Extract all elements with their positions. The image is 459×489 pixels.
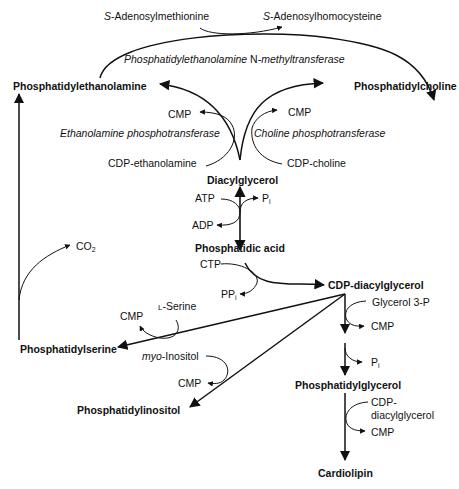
arrow-dag-to-pc bbox=[240, 83, 323, 160]
cdp-choline-label: CDP-choline bbox=[287, 157, 346, 169]
myo-inositol-label: myo-Inositol bbox=[142, 350, 199, 362]
arrow-cdpe-to-cmp bbox=[200, 112, 234, 166]
pi-pg-base: P bbox=[371, 356, 378, 368]
co2-label: CO2 bbox=[76, 240, 96, 256]
pi-top-sub: i bbox=[269, 198, 271, 205]
ept-enzyme-label: Ethanolamine phosphotransferase bbox=[60, 127, 220, 139]
co2-sub: 2 bbox=[92, 246, 96, 253]
arrow-dag-to-pe bbox=[160, 84, 240, 160]
cardiolipin-label: Cardiolipin bbox=[318, 467, 373, 479]
dag-label: Diacylglycerol bbox=[207, 174, 278, 186]
ps-label: Phosphatidylserine bbox=[20, 343, 117, 355]
sah-label: S-Adenosylhomocysteine bbox=[263, 10, 382, 22]
sam-prefix: S bbox=[104, 10, 111, 22]
pe-label: Phosphatidylethanolamine bbox=[13, 80, 147, 92]
arrow-to-adp bbox=[217, 212, 240, 225]
pemt-part2: N bbox=[250, 53, 258, 65]
sam-label: S-Adenosylmethionine bbox=[104, 10, 209, 22]
co2-base: CO bbox=[76, 240, 92, 252]
phospholipid-biosynthesis-diagram: S-Adenosylmethionine S-Adenosylhomocyste… bbox=[0, 0, 459, 489]
pa-label: Phosphatidic acid bbox=[195, 242, 285, 254]
cdp-ethanolamine-label: CDP-ethanolamine bbox=[108, 157, 197, 169]
atp-label: ATP bbox=[195, 192, 215, 204]
l-serine-text: -Serine bbox=[162, 300, 196, 312]
pc-label: Phosphatidylcholine bbox=[354, 80, 457, 92]
pg-label: Phosphatidylglycerol bbox=[295, 379, 401, 391]
pemt-part1: Phosphatidylethanolamine bbox=[124, 53, 250, 65]
cdp-dag-label: CDP-diacylglycerol bbox=[328, 279, 424, 291]
cmp-glycerol-label: CMP bbox=[371, 320, 394, 332]
cdp-dag2-line1: CDP- bbox=[371, 396, 397, 408]
pi-pg-label: Pi bbox=[371, 356, 380, 372]
arrow-g3p-cmp bbox=[346, 301, 366, 326]
arrow-to-pi bbox=[345, 348, 362, 362]
sah-prefix: S bbox=[263, 10, 270, 22]
myo-prefix: myo bbox=[142, 350, 162, 362]
pemt-enzyme-label: Phosphatidylethanolamine N-methyltransfe… bbox=[124, 53, 345, 65]
glycerol-3p-label: Glycerol 3-P bbox=[372, 296, 430, 308]
pemt-part3: -methyltransferase bbox=[258, 53, 345, 65]
arrow-serine-cmp bbox=[140, 320, 178, 338]
pi-top-label: Pi bbox=[262, 192, 271, 208]
phosphatidylinositol-label: Phosphatidylinositol bbox=[77, 404, 180, 416]
arrow-cdpdag2-cmp bbox=[346, 402, 368, 431]
ppi-sub: i bbox=[235, 294, 237, 301]
cmp-left-label: CMP bbox=[168, 108, 191, 120]
cmp-serine-label: CMP bbox=[120, 310, 143, 322]
arrow-co2 bbox=[19, 245, 70, 300]
sam-text: -Adenosylmethionine bbox=[111, 10, 209, 22]
ctp-label: CTP bbox=[200, 258, 221, 270]
cpt-enzyme-label: Choline phosphotransferase bbox=[254, 127, 385, 139]
arrow-inositol-cmp bbox=[206, 356, 228, 384]
pi-top-base: P bbox=[262, 192, 269, 204]
arrow-sam-to-sah bbox=[200, 27, 282, 34]
cmp-cardio-label: CMP bbox=[371, 426, 394, 438]
adp-label: ADP bbox=[192, 219, 214, 231]
myo-inositol-text: -Inositol bbox=[162, 350, 199, 362]
l-serine-label: L-Serine bbox=[158, 300, 196, 314]
pi-pg-sub: i bbox=[378, 362, 380, 369]
cmp-right-label: CMP bbox=[288, 106, 311, 118]
sah-text: -Adenosylhomocysteine bbox=[270, 10, 381, 22]
ppi-base: PP bbox=[221, 288, 235, 300]
ppi-label: PPi bbox=[221, 288, 237, 304]
cmp-inositol-label: CMP bbox=[178, 377, 201, 389]
cdp-dag2-line2: diacylglycerol bbox=[371, 409, 434, 421]
